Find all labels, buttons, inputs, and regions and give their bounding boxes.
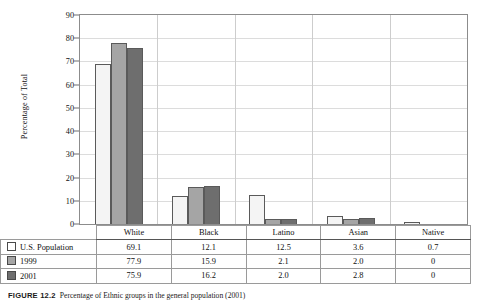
table-cell: 2.1: [246, 254, 321, 268]
legend-cell: 2001: [1, 269, 97, 283]
swatch-gray-icon: [7, 256, 16, 265]
legend-label: 1999: [20, 257, 37, 266]
y-tick-label: 40: [0, 127, 74, 136]
table-row: 199977.915.92.12.00: [1, 254, 471, 268]
table-corner-cell: [1, 226, 97, 240]
legend-label: 2001: [20, 272, 37, 281]
bar: [359, 218, 375, 225]
y-tick-label: 20: [0, 173, 74, 182]
table-cell: 69.1: [97, 240, 172, 254]
bar: [265, 219, 281, 224]
table-cell: 12.5: [246, 240, 321, 254]
bar: [327, 216, 343, 224]
bar: [127, 48, 143, 224]
column-header: Native: [396, 226, 471, 240]
table-cell: 0: [396, 269, 471, 283]
caption-text: Percentage of Ethnic groups in the gener…: [60, 291, 246, 300]
bar-group: [80, 15, 157, 224]
bar: [95, 64, 111, 224]
y-tick-label: 50: [0, 103, 74, 112]
bar: [404, 222, 420, 224]
caption-label: FIGURE 12.2: [8, 291, 56, 300]
data-table-wrapper: WhiteBlackLatinoAsianNativeU.S. Populati…: [0, 225, 470, 284]
column-header: Black: [171, 226, 246, 240]
data-table: WhiteBlackLatinoAsianNativeU.S. Populati…: [0, 225, 471, 284]
table-cell: 3.6: [321, 240, 396, 254]
bar-group: [235, 15, 312, 224]
y-tick-label: 10: [0, 196, 74, 205]
table-cell: 2.8: [321, 269, 396, 283]
bar: [188, 187, 204, 224]
legend-cell: 1999: [1, 254, 97, 268]
table-cell: 15.9: [171, 254, 246, 268]
plot-area: [79, 14, 468, 225]
table-cell: 16.2: [171, 269, 246, 283]
y-tick-label: 90: [0, 11, 74, 20]
figure-container: Percentage of Total 9080706050403020100 …: [0, 0, 481, 301]
table-cell: 0.7: [396, 240, 471, 254]
legend-label: U.S. Population: [20, 243, 73, 252]
table-cell: 75.9: [97, 269, 172, 283]
table-row: 200175.916.22.02.80: [1, 269, 471, 283]
bar-group: [157, 15, 234, 224]
bar-chart: Percentage of Total 9080706050403020100: [0, 0, 481, 238]
bar-group: [390, 15, 467, 224]
legend-cell: U.S. Population: [1, 240, 97, 254]
swatch-white-icon: [7, 242, 16, 251]
bar: [204, 186, 220, 224]
bar: [172, 196, 188, 224]
y-tick-label: 60: [0, 80, 74, 89]
bar: [111, 43, 127, 224]
table-cell: 0: [396, 254, 471, 268]
y-tick-label: 80: [0, 34, 74, 43]
bar: [281, 219, 297, 224]
table-cell: 77.9: [97, 254, 172, 268]
figure-caption: FIGURE 12.2Percentage of Ethnic groups i…: [8, 291, 473, 300]
table-header-row: WhiteBlackLatinoAsianNative: [1, 226, 471, 240]
bar: [343, 219, 359, 224]
y-tick-label: 30: [0, 150, 74, 159]
bars-layer: [80, 15, 467, 224]
y-tick-label: 70: [0, 57, 74, 66]
bar-group: [312, 15, 389, 224]
table-cell: 2.0: [246, 269, 321, 283]
column-header: White: [97, 226, 172, 240]
bar: [249, 195, 265, 224]
table-cell: 12.1: [171, 240, 246, 254]
column-header: Latino: [246, 226, 321, 240]
table-cell: 2.0: [321, 254, 396, 268]
column-header: Asian: [321, 226, 396, 240]
swatch-dark-gray-icon: [7, 271, 16, 280]
table-row: U.S. Population69.112.112.53.60.7: [1, 240, 471, 254]
